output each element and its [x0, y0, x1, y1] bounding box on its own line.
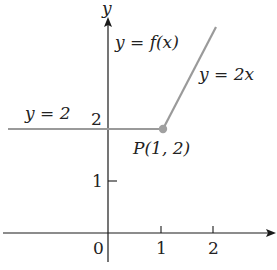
- origin-label: 0: [93, 238, 104, 258]
- piecewise-function-graph: y y = f(x) y = 2x y = 2 2 1 P(1, 2) 0 1 …: [0, 0, 277, 270]
- x-tick-label-2: 2: [208, 238, 219, 258]
- point-p-label: P(1, 2): [132, 138, 190, 158]
- constant-piece-label: y = 2: [24, 103, 70, 123]
- y-tick-label-1: 1: [92, 171, 103, 191]
- x-axis: [3, 226, 276, 237]
- linear-piece-label: y = 2x: [198, 64, 254, 84]
- y-axis: [104, 17, 118, 262]
- y-axis-label: y: [101, 0, 112, 18]
- function-label: y = f(x): [114, 32, 179, 52]
- point-p-marker: [159, 125, 167, 133]
- x-tick-label-1: 1: [156, 238, 167, 258]
- y-tick-label-2: 2: [91, 109, 102, 129]
